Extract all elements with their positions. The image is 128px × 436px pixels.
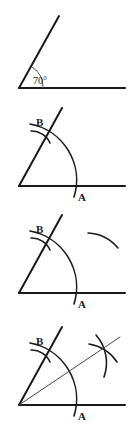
point-a-label: A xyxy=(78,298,86,310)
point-a-label: A xyxy=(78,410,86,422)
point-b-label: B xyxy=(36,335,44,347)
point-b-label: B xyxy=(36,223,44,235)
free-arc-from-point-a xyxy=(88,233,118,248)
panel-step-1: 70° xyxy=(0,0,128,98)
crossing-arc-from-b xyxy=(96,335,106,377)
point-a-label: A xyxy=(78,191,86,203)
angle-bisector-figure: 70° B A xyxy=(0,0,128,436)
angle-label: 70° xyxy=(33,75,47,86)
panel-step-4: B A xyxy=(0,315,128,436)
panel-step-2: B A xyxy=(0,98,128,205)
point-b-label: B xyxy=(36,116,44,128)
panel-step-3: B A xyxy=(0,205,128,315)
angle-bisector-line xyxy=(19,337,120,405)
